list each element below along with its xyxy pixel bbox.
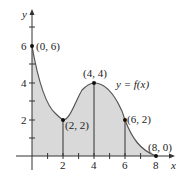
function-area-chart: 2 4 6 8 2 4 6 x y (0, 6) (2, 2) (4, 4) (…	[0, 0, 183, 187]
y-tick-label-6: 6	[21, 40, 27, 52]
point-0-6	[30, 44, 34, 48]
y-tick-label-4: 4	[21, 77, 27, 89]
x-axis-label: x	[170, 159, 176, 171]
point-8-0	[154, 154, 158, 158]
point-label-8-0: (8, 0)	[148, 141, 172, 154]
x-tick-label-4: 4	[91, 159, 97, 171]
y-axis-label: y	[21, 8, 27, 20]
x-tick-label-2: 2	[60, 159, 66, 171]
point-label-2-2: (2, 2)	[65, 119, 89, 132]
point-label-0-6: (0, 6)	[36, 40, 60, 53]
y-tick-label-2: 2	[21, 114, 27, 126]
y-axis-arrow-icon	[30, 9, 35, 15]
x-axis-arrow-icon	[169, 154, 175, 159]
point-label-4-4: (4, 4)	[83, 67, 107, 80]
curve-label: y = f(x)	[115, 78, 149, 91]
x-tick-label-6: 6	[122, 159, 128, 171]
point-4-4	[92, 81, 96, 85]
point-label-6-2: (6, 2)	[127, 113, 151, 126]
x-tick-label-8: 8	[153, 159, 159, 171]
